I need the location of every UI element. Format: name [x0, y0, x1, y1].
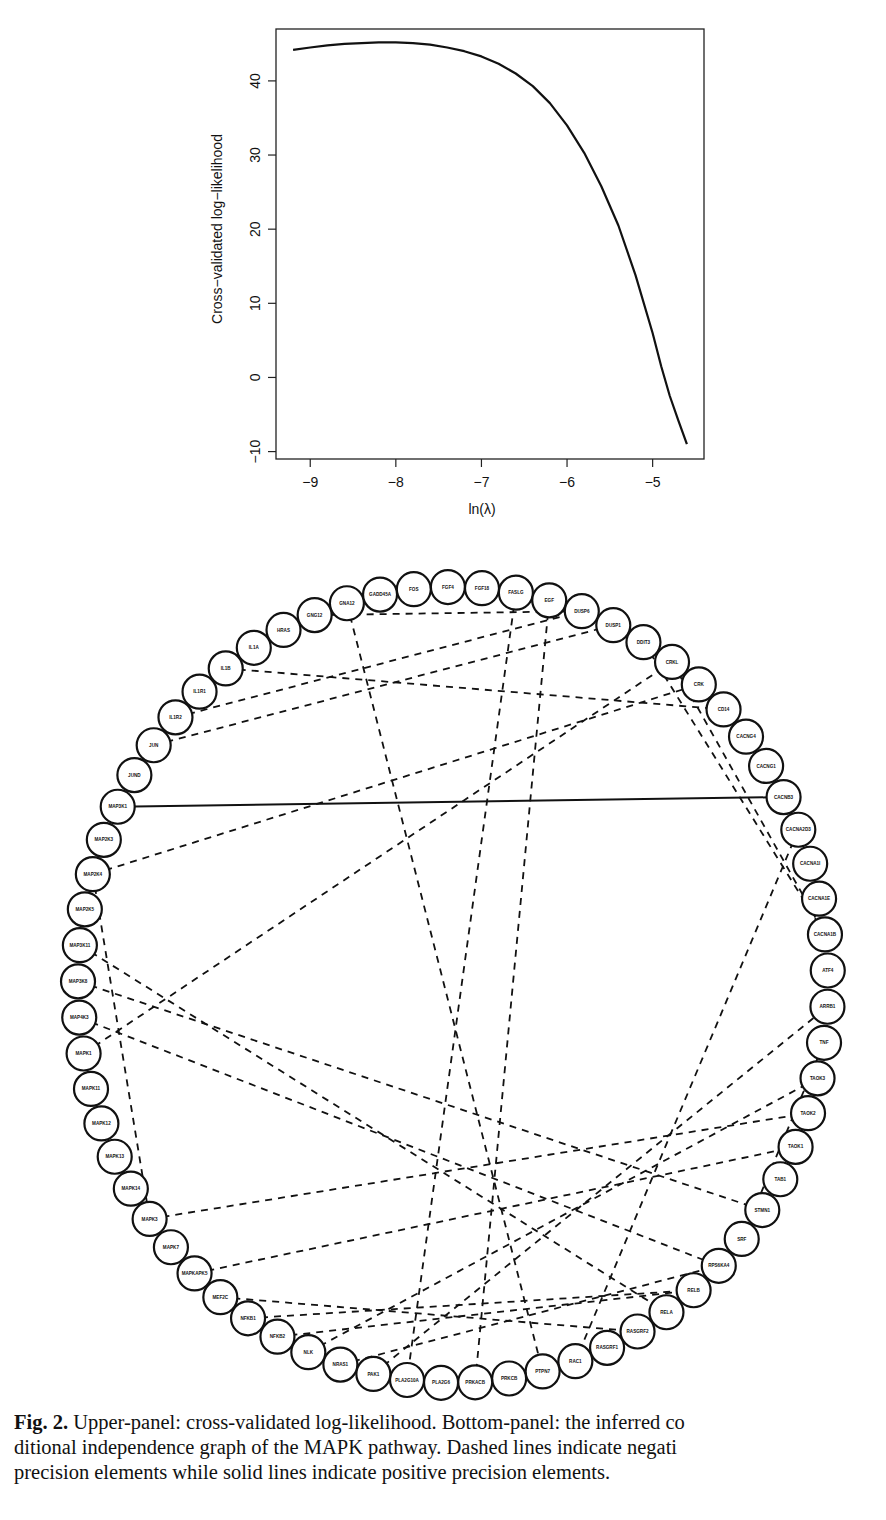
- graph-node: RPS6KA4: [702, 1249, 736, 1283]
- graph-node: TNF: [807, 1026, 841, 1060]
- node-label: MEF2C: [213, 1295, 229, 1300]
- node-label: TAOK1: [788, 1144, 804, 1149]
- node-label: RPS6KA4: [708, 1263, 730, 1268]
- graph-node: MAPK13: [98, 1140, 132, 1174]
- graph-node: MAPK14: [114, 1172, 148, 1206]
- x-tick-label: −5: [645, 474, 661, 490]
- node-label: MAP3K11: [69, 943, 90, 948]
- node-layer: FOSFGF4FGF18FASLGEGFDUSP6DUSP1DDIT3CRKLC…: [61, 570, 845, 1400]
- node-label: MAPK7: [163, 1245, 180, 1250]
- node-label: CACNG1: [756, 764, 776, 769]
- graph-node: CD14: [707, 692, 741, 726]
- figure-label: Fig. 2.: [14, 1411, 68, 1433]
- graph-node: RASGRF2: [621, 1314, 655, 1348]
- node-label: TAOK2: [800, 1111, 816, 1116]
- graph-node: PLA2G6: [424, 1366, 458, 1400]
- graph-node: IL1R1: [183, 675, 217, 709]
- graph-node: MAPK12: [84, 1106, 118, 1140]
- node-label: PAK1: [367, 1372, 379, 1377]
- node-label: FOS: [409, 587, 418, 592]
- x-tick-label: −6: [559, 474, 575, 490]
- node-label: TAOK3: [810, 1076, 826, 1081]
- node-label: ATF4: [822, 968, 834, 973]
- graph-node: CACNA2D3: [781, 813, 815, 847]
- node-label: GNA12: [339, 601, 355, 606]
- graph-node: GNG12: [298, 598, 332, 632]
- node-label: MAPKAPK5: [182, 1271, 208, 1276]
- negative-edge: [226, 668, 724, 709]
- node-label: PLA2G10A: [395, 1378, 419, 1383]
- graph-node: MAP3K8: [61, 964, 95, 998]
- negative-edge: [475, 600, 549, 1382]
- node-label: MAP4K3: [70, 1015, 89, 1020]
- graph-node: NRAS1: [323, 1348, 357, 1382]
- node-label: CD14: [718, 707, 730, 712]
- graph-node: NFKB1: [231, 1301, 265, 1335]
- node-label: CACNG4: [736, 734, 756, 739]
- node-label: RASGRF1: [596, 1345, 618, 1350]
- node-label: RELB: [687, 1288, 700, 1293]
- graph-node: STMN1: [745, 1193, 779, 1227]
- node-label: MAP2K5: [76, 907, 95, 912]
- node-label: NLK: [304, 1350, 314, 1355]
- graph-node: DUSP6: [565, 594, 599, 628]
- node-label: MAPK1: [76, 1051, 93, 1056]
- node-label: TNF: [820, 1040, 829, 1045]
- graph-node: DUSP1: [596, 608, 630, 642]
- node-label: MAP2K4: [84, 872, 103, 877]
- node-label: TAB1: [774, 1177, 786, 1182]
- node-label: PLA2G6: [432, 1380, 450, 1385]
- graph-node: CACNG1: [749, 749, 783, 783]
- graph-node: FASLG: [499, 576, 533, 610]
- negative-edge: [150, 1113, 808, 1219]
- negative-edge: [347, 603, 543, 1371]
- node-label: ARRB1: [820, 1004, 836, 1009]
- x-tick-label: −8: [388, 474, 404, 490]
- y-tick-label: 40: [247, 73, 263, 89]
- graph-node: MAP4K3: [62, 1001, 96, 1035]
- graph-node: MAP2K5: [68, 892, 102, 926]
- node-label: CRK: [694, 682, 705, 687]
- graph-node: IL1A: [237, 631, 271, 665]
- graph-node: MAPK1: [67, 1037, 101, 1071]
- node-label: IL1B: [221, 666, 232, 671]
- y-tick-label: 10: [247, 295, 263, 311]
- graph-node: ARRB1: [810, 990, 844, 1024]
- node-label: FGF18: [475, 586, 490, 591]
- node-label: IL1R2: [169, 715, 182, 720]
- graph-node: TAOK1: [779, 1130, 813, 1164]
- node-label: EGF: [545, 598, 555, 603]
- graph-node: JUN: [137, 728, 171, 762]
- node-label: MAPK3: [142, 1217, 159, 1222]
- node-label: NFKB1: [240, 1316, 256, 1321]
- caption-line-3: precision elements while solid lines ind…: [14, 1460, 886, 1485]
- graph-node: CRKL: [655, 645, 689, 679]
- graph-node: CRK: [682, 667, 716, 701]
- node-label: MAP3K8: [69, 979, 88, 984]
- x-tick-label: −9: [302, 474, 318, 490]
- y-tick-label: 30: [247, 147, 263, 163]
- y-axis-label: Cross−validated log−likelihood: [209, 134, 225, 324]
- graph-node: GADD45A: [363, 578, 397, 612]
- node-label: FASLG: [508, 590, 524, 595]
- node-label: MAPK14: [122, 1186, 141, 1191]
- graph-node: MAP2K3: [87, 823, 121, 857]
- graph-node: RASGRF1: [590, 1331, 624, 1365]
- caption-line-2: ditional independence graph of the MAPK …: [14, 1435, 886, 1460]
- graph-node: FGF4: [431, 570, 465, 604]
- node-label: GNG12: [307, 613, 323, 618]
- node-label: NRAS1: [333, 1362, 349, 1367]
- node-label: MAPK11: [82, 1086, 101, 1091]
- x-axis-label: ln(λ): [468, 501, 495, 517]
- node-label: CACNA1B: [814, 932, 837, 937]
- y-tick-label: −10: [247, 439, 263, 463]
- node-label: IL1R1: [193, 689, 206, 694]
- node-label: DUSP6: [574, 609, 590, 614]
- graph-node: RELB: [677, 1273, 711, 1307]
- graph-node: JUND: [117, 758, 151, 792]
- graph-node: PRKCB: [492, 1362, 526, 1396]
- graph-node: SRF: [725, 1222, 759, 1256]
- graph-node: IL1B: [209, 651, 243, 685]
- node-label: CACNA2D3: [786, 827, 811, 832]
- cv-loglik-line: [293, 42, 687, 444]
